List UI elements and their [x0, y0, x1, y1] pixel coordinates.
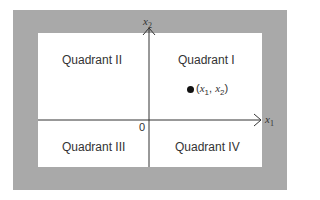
quadrant-iv-label: Quadrant IV	[175, 140, 240, 154]
quadrant-ii-label: Quadrant II	[62, 53, 122, 67]
quadrant-iii-label: Quadrant III	[62, 140, 125, 154]
point-coordinates-label: (x1, x2)	[196, 82, 228, 97]
x1-axis-label: x1	[265, 113, 274, 128]
quadrant-i-label: Quadrant I	[178, 53, 235, 67]
origin-label: 0	[139, 121, 145, 133]
x2-axis-label: x2	[143, 15, 152, 30]
point-marker	[187, 86, 194, 93]
